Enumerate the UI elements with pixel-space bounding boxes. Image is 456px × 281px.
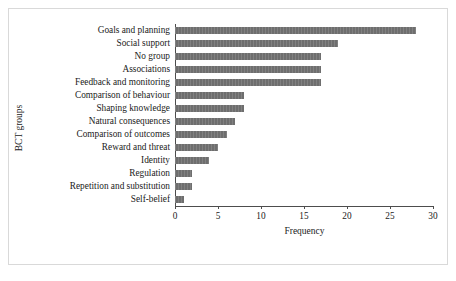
- x-axis-tick-mark: [347, 206, 348, 209]
- bar: [175, 170, 192, 177]
- y-axis-category-label: No group: [30, 50, 173, 63]
- x-axis-tick-mark: [175, 206, 176, 209]
- x-axis-tick-label: 5: [203, 211, 233, 221]
- bar: [175, 118, 235, 125]
- y-axis-category-label: Associations: [30, 63, 173, 76]
- x-axis-tick-mark: [304, 206, 305, 209]
- bar-row: [175, 193, 433, 206]
- bar: [175, 144, 218, 151]
- bar: [175, 66, 321, 73]
- bar-row: [175, 167, 433, 180]
- y-axis-category-label: Self-belief: [30, 193, 173, 206]
- y-axis-category-label: Natural consequences: [30, 115, 173, 128]
- y-axis-title: BCT groups: [14, 83, 24, 173]
- bar-row: [175, 37, 433, 50]
- bar-row: [175, 115, 433, 128]
- bar: [175, 105, 244, 112]
- bar-row: [175, 180, 433, 193]
- y-axis-category-label: Goals and planning: [30, 24, 173, 37]
- x-axis-tick-label: 30: [418, 211, 448, 221]
- bar: [175, 27, 416, 34]
- bar: [175, 92, 244, 99]
- y-axis-category-label: Repetition and substitution: [30, 180, 173, 193]
- y-axis-category-label: Reward and threat: [30, 141, 173, 154]
- plot-area: [175, 24, 433, 206]
- bar: [175, 131, 227, 138]
- y-axis-category-labels: Goals and planningSocial supportNo group…: [30, 24, 173, 206]
- bar-row: [175, 141, 433, 154]
- bar: [175, 196, 184, 203]
- x-axis-tick-mark: [433, 206, 434, 209]
- bar: [175, 53, 321, 60]
- bar-row: [175, 50, 433, 63]
- y-axis-category-label: Shaping knowledge: [30, 102, 173, 115]
- x-axis-tick-mark: [390, 206, 391, 209]
- bar: [175, 79, 321, 86]
- y-axis-category-label: Regulation: [30, 167, 173, 180]
- bar-row: [175, 63, 433, 76]
- y-axis-category-label: Identity: [30, 154, 173, 167]
- x-axis-tick-mark: [218, 206, 219, 209]
- y-axis-category-label: Comparison of behaviour: [30, 89, 173, 102]
- bar-row: [175, 89, 433, 102]
- bar: [175, 183, 192, 190]
- chart-figure: Goals and planningSocial supportNo group…: [0, 0, 456, 281]
- x-axis-tick-label: 15: [289, 211, 319, 221]
- x-axis-tick-label: 0: [160, 211, 190, 221]
- bar-row: [175, 76, 433, 89]
- x-axis-tick-label: 20: [332, 211, 362, 221]
- bar: [175, 157, 209, 164]
- x-axis-title: Frequency: [175, 226, 434, 236]
- x-axis-tick-label: 25: [375, 211, 405, 221]
- bar-row: [175, 154, 433, 167]
- x-axis-tick-label: 10: [246, 211, 276, 221]
- y-axis-category-label: Social support: [30, 37, 173, 50]
- bar-row: [175, 102, 433, 115]
- x-axis-tick-mark: [261, 206, 262, 209]
- y-axis-category-label: Feedback and monitoring: [30, 76, 173, 89]
- y-axis-category-label: Comparison of outcomes: [30, 128, 173, 141]
- bar-row: [175, 24, 433, 37]
- bar: [175, 40, 338, 47]
- bar-row: [175, 128, 433, 141]
- y-axis-title-wrap: BCT groups: [12, 85, 26, 175]
